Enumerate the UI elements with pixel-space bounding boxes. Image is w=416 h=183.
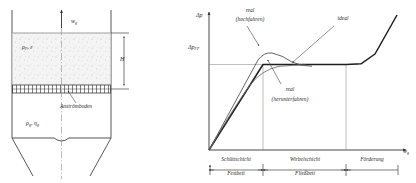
annotation-real-herunterfahren-line1: real	[286, 87, 295, 93]
x-axis-label: wg	[403, 148, 409, 155]
chart-axes	[209, 12, 406, 150]
annotation-real-herunterfahren-line2: (herunterfahren)	[272, 97, 309, 103]
series-real-herunterfahren	[209, 65, 306, 150]
region-label-schuettschicht-line2: Festbett	[227, 171, 245, 177]
annotation-real-hochfahren-line1: real	[246, 8, 255, 14]
annotation-ideal: ideal	[338, 16, 349, 22]
region-label-schuettschicht-line1: Schüttschicht	[221, 157, 250, 163]
y-axis-label: Δp	[196, 12, 203, 18]
y-tick-dpff-label: ΔpFF	[188, 44, 199, 51]
region-label-foerderung: Förderung	[360, 157, 384, 163]
pressure-drop-chart	[0, 0, 416, 183]
region-label-wirbelschicht-line2: Fließbett	[295, 171, 315, 177]
series-ideal	[209, 15, 397, 150]
annotation-real-hochfahren-line2: (hochfahren)	[236, 17, 265, 23]
region-divider-lines	[263, 65, 346, 151]
region-label-wirbelschicht-line1: Wirbelschicht	[290, 157, 320, 163]
figure-root: wg ρF, ε H Anströmboden ρg, ηg	[0, 0, 416, 183]
